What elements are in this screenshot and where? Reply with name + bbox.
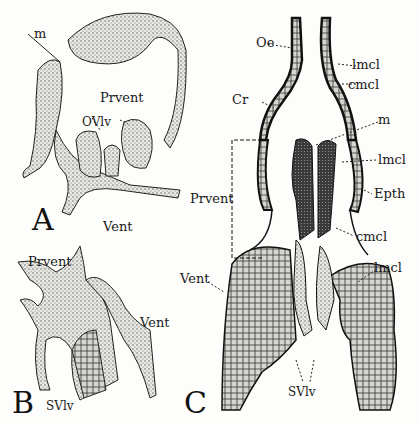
label-c-cr: Cr (232, 93, 248, 106)
panel-label-b: B (12, 388, 34, 418)
label-a-ovlv: OVlv (82, 116, 111, 128)
label-b-prvent: Prvent (28, 255, 72, 268)
label-c-m: m (378, 113, 390, 126)
label-a-prvent: Prvent (100, 91, 144, 104)
anatomical-figure: A B C m Prvent OVlv Vent Prvent Vent SVl… (0, 0, 419, 425)
label-c-svlv: SVlv (288, 386, 316, 398)
label-c-lmcl-mid: lmcl (378, 153, 406, 166)
panel-label-c: C (184, 388, 207, 418)
label-c-epth: Epth (374, 187, 405, 200)
label-c-lmcl-low: lmcl (374, 261, 402, 274)
label-c-cmcl-low: cmcl (356, 230, 387, 243)
label-b-svlv: SVlv (46, 400, 74, 412)
label-c-cmcl-top: cmcl (348, 78, 379, 91)
label-b-vent: Vent (140, 316, 170, 329)
panel-label-a: A (32, 205, 54, 235)
label-c-oe: Oe (256, 36, 274, 49)
label-c-vent: Vent (180, 272, 210, 285)
label-c-prvent: Prvent (190, 192, 234, 205)
label-a-vent: Vent (103, 220, 133, 233)
panel-b-drawing (18, 246, 156, 400)
label-c-lmcl-top: lmcl (352, 58, 380, 71)
label-a-m: m (34, 27, 46, 40)
